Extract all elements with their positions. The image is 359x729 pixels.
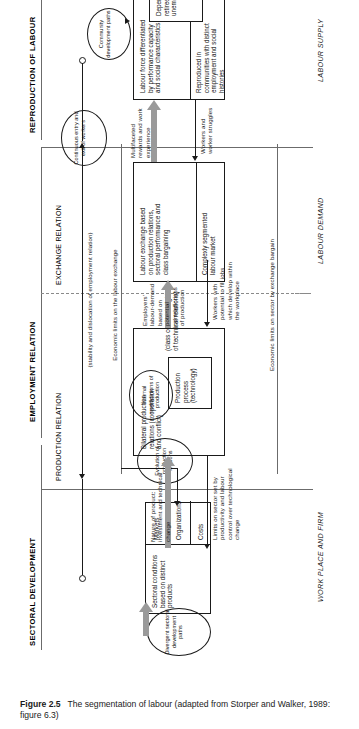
grey-arrowhead-divergent bbox=[139, 602, 153, 612]
box-labour-force-segment: Reproduced in communities with distinct … bbox=[195, 19, 225, 93]
rule-econ-limits-exchange bbox=[121, 144, 122, 474]
box-sectoral-divider-v bbox=[146, 544, 210, 545]
label-multifaceted: Multifaceted rewards and work experience bbox=[129, 106, 151, 158]
diagram: SECTORAL DEVELOPMENT EMPLOYMENT RELATION… bbox=[25, 0, 335, 660]
box-sectoral-row-costs: Costs bbox=[197, 524, 205, 540]
label-employers-demand: Employers' labour-demand based on potent… bbox=[141, 282, 185, 326]
subheading-production-relation: PRODUCTION RELATION bbox=[55, 393, 62, 481]
axis-stub-left bbox=[82, 479, 83, 575]
box-production-process[interactable]: Production process (technology) bbox=[168, 357, 212, 409]
role-label-labour-supply: LABOUR SUPPLY bbox=[317, 19, 324, 82]
band-heading-employment: EMPLOYMENT RELATION bbox=[28, 321, 37, 422]
subheading-exchange-relation: EXCHANGE RELATION bbox=[55, 205, 62, 285]
rule-top-sectoral bbox=[41, 445, 42, 650]
ellipse-community-paths-label: Community development paths bbox=[98, 9, 111, 59]
figure-caption: Figure 2.5The segmentation of labour (ad… bbox=[20, 699, 351, 721]
box-sectoral-conditions-title: Sectoral conditions based on distinct pr… bbox=[151, 550, 174, 608]
rule-top-reproduction bbox=[41, 0, 42, 140]
label-workers-struggles: Workers and worker struggles bbox=[199, 100, 214, 154]
rule-econ-limits-sector bbox=[277, 144, 278, 474]
label-econ-limits-exchange: Economic limits on the labour exchange bbox=[111, 200, 118, 410]
arrowhead-limits-on-sector bbox=[204, 544, 210, 549]
ellipse-divergent-paths: Divergent sectoral development paths bbox=[147, 608, 211, 656]
arrowhead-community-paths bbox=[125, 18, 130, 24]
band-heading-reproduction: REPRODUCTION OF LABOUR bbox=[28, 16, 37, 133]
tick-production-exchange bbox=[295, 293, 311, 294]
figure-page: SECTORAL DEVELOPMENT EMPLOYMENT RELATION… bbox=[0, 0, 359, 729]
line-workers-potential bbox=[207, 260, 208, 322]
box-sectoral-row-organizations: Organizations bbox=[175, 501, 183, 540]
line-workers-struggles bbox=[195, 100, 196, 156]
ellipse-continuous-entry-label: Continuous entry and exit of workers bbox=[73, 111, 86, 165]
figure-caption-text: The segmentation of labour (adapted from… bbox=[20, 699, 330, 720]
box-dependents-label: Dependents, retirees and unemployed bbox=[155, 0, 178, 16]
box-production-process-label: Production process (technology) bbox=[174, 361, 197, 403]
tick-employment-reproduction bbox=[301, 147, 313, 148]
figure-number: Figure 2.5 bbox=[20, 699, 61, 709]
band-separator-sectoral-employment bbox=[41, 489, 309, 490]
arrowhead-workers-potential bbox=[204, 322, 210, 327]
grey-arrow-multifaceted bbox=[151, 108, 157, 162]
role-label-work-place: WORK PLACE AND FIRM bbox=[317, 512, 324, 602]
ellipse-internal-label: Internal modifications of production bbox=[141, 371, 161, 419]
band-heading-sectoral: SECTORAL DEVELOPMENT bbox=[28, 538, 37, 646]
arrowhead-workers-struggles bbox=[192, 156, 198, 161]
feedback-arrowhead-organizations bbox=[174, 501, 180, 506]
ellipse-divergent-paths-label: Divergent sectoral development paths bbox=[164, 609, 184, 655]
axis-line-stability bbox=[82, 144, 83, 474]
rotated-figure-canvas: SECTORAL DEVELOPMENT EMPLOYMENT RELATION… bbox=[25, 0, 335, 660]
axis-note: (stability and dislocation of employment… bbox=[86, 210, 93, 390]
box-labour-exchange-title: Labour exchange based on production rela… bbox=[139, 201, 169, 275]
label-limits-on-sector: Limits on sector set by productivity and… bbox=[211, 456, 241, 540]
label-nature-of-product: Nature of product: investment and techni… bbox=[149, 464, 171, 542]
terminator-circle-left bbox=[79, 575, 86, 582]
line-limits-on-sector bbox=[207, 456, 208, 544]
box-labour-exchange-divider bbox=[196, 163, 197, 281]
label-workers-potential: Workers with potential to fill jobs whic… bbox=[211, 262, 241, 320]
grey-loop-divergent-top bbox=[143, 610, 149, 636]
tick-work-employment bbox=[301, 489, 313, 490]
label-econ-limits-sector: Economic limits on sector by exchange ba… bbox=[268, 200, 275, 410]
box-dependents[interactable]: Dependents, retirees and unemployed bbox=[149, 0, 203, 22]
ellipse-internal-modifications: Internal modifications of production bbox=[129, 370, 173, 420]
box-labour-force-title: Labour force differentiated by performan… bbox=[139, 19, 162, 93]
box-sectoral-divider-h2 bbox=[190, 501, 191, 545]
ellipse-community-paths: Community development paths bbox=[87, 8, 131, 60]
ellipse-continuous-entry: Continuous entry and exit of workers bbox=[61, 110, 107, 166]
role-label-labour-demand: LABOUR DEMAND bbox=[317, 197, 324, 264]
